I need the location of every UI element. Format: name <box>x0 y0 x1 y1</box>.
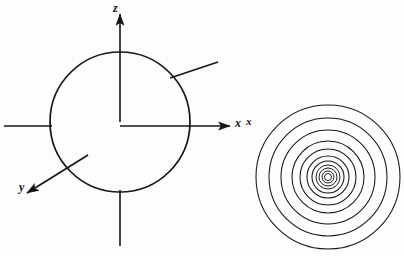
sphere-group <box>4 14 230 246</box>
concentric-ring <box>322 171 334 183</box>
concentric-ring <box>307 156 349 198</box>
axis-label-x: x <box>235 117 241 129</box>
concentric-ring <box>316 165 340 189</box>
axis-label-z: z <box>113 2 118 14</box>
concentric-ring <box>269 118 387 236</box>
axis-label-y: y <box>19 181 24 193</box>
concentric-ring <box>292 141 364 213</box>
concentric-ring <box>312 161 344 193</box>
ray-upper-right <box>170 62 218 78</box>
axis-y-line <box>27 155 88 193</box>
concentric-label-x: x <box>246 116 252 127</box>
figure-root: z x y x <box>0 0 404 256</box>
figure-canvas <box>0 0 404 256</box>
concentric-ring <box>256 105 400 249</box>
concentric-ring <box>300 149 356 205</box>
concentric-ring <box>281 130 375 224</box>
concentric-circles-group <box>256 105 400 249</box>
concentric-ring <box>325 174 332 181</box>
